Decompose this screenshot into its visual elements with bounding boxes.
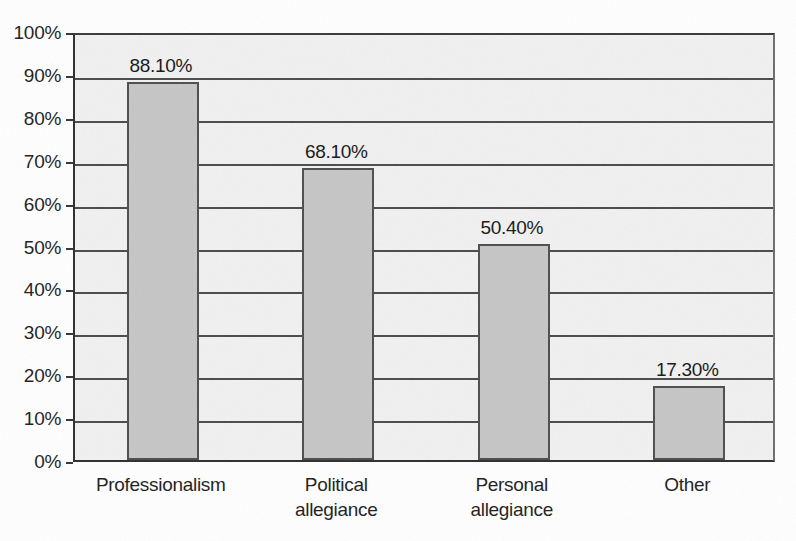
- chart-figure: 100%90%80%70%60%50%40%30%20%10%0%88.10%P…: [0, 0, 796, 541]
- y-axis-label: 20%: [0, 365, 61, 387]
- y-axis-label: 80%: [0, 108, 61, 130]
- bar[interactable]: [653, 386, 725, 460]
- y-axis-tick: [66, 162, 73, 164]
- y-axis-label: 40%: [0, 279, 61, 301]
- y-axis-tick: [66, 205, 73, 207]
- y-axis-label: 10%: [0, 408, 61, 430]
- y-axis-label: 70%: [0, 151, 61, 173]
- y-axis-label: 60%: [0, 194, 61, 216]
- plot-inner: [75, 35, 773, 460]
- y-axis-tick: [66, 76, 73, 78]
- y-axis-tick: [66, 248, 73, 250]
- bar[interactable]: [127, 82, 199, 460]
- y-axis-label: 0%: [0, 451, 61, 473]
- y-axis-tick: [66, 419, 73, 421]
- bar[interactable]: [302, 168, 374, 460]
- bar[interactable]: [478, 244, 550, 460]
- y-axis-tick: [66, 333, 73, 335]
- bar-value-label: 17.30%: [607, 359, 767, 381]
- y-axis-tick: [66, 119, 73, 121]
- y-axis-tick: [66, 290, 73, 292]
- x-axis-category-label: Other: [577, 472, 796, 497]
- y-axis-label: 30%: [0, 322, 61, 344]
- bar-value-label: 50.40%: [432, 217, 592, 239]
- y-axis-label: 50%: [0, 237, 61, 259]
- y-axis-label: 100%: [0, 22, 61, 44]
- y-axis-tick: [66, 33, 73, 35]
- bar-value-label: 88.10%: [81, 55, 241, 77]
- y-axis-label: 90%: [0, 65, 61, 87]
- gridline: [75, 78, 773, 80]
- y-axis-tick: [66, 376, 73, 378]
- bar-value-label: 68.10%: [256, 141, 416, 163]
- y-axis-tick: [66, 462, 73, 464]
- plot-area: [73, 33, 775, 462]
